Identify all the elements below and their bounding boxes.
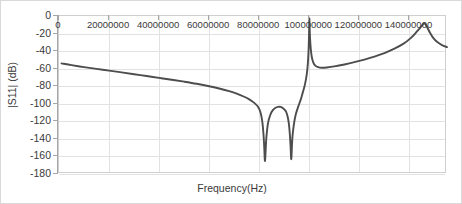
gridline-horizontal xyxy=(59,174,445,175)
y-axis-line xyxy=(57,15,58,174)
y-tick-mark xyxy=(53,33,57,34)
y-tick-mark xyxy=(53,138,57,139)
y-tick-label: -180 xyxy=(5,168,51,178)
y-axis-title: |S11| (dB) xyxy=(6,50,18,120)
x-axis-title: Frequency(Hz) xyxy=(1,182,462,194)
y-tick-label: -140 xyxy=(5,133,51,143)
y-tick-mark xyxy=(53,155,57,156)
y-tick-mark xyxy=(53,15,57,16)
series-path-s11 xyxy=(62,18,448,161)
y-tick-label: 0 xyxy=(5,10,51,20)
y-tick-mark xyxy=(53,50,57,51)
y-tick-label: -160 xyxy=(5,150,51,160)
y-tick-label: -20 xyxy=(5,28,51,38)
series-line-s11 xyxy=(59,16,447,174)
chart-container: 0-20-40-60-80-100-120-140-160-180 020000… xyxy=(0,0,462,204)
y-tick-mark xyxy=(53,173,57,174)
plot-area xyxy=(58,15,446,173)
y-tick-mark xyxy=(53,68,57,69)
y-tick-mark xyxy=(53,85,57,86)
y-tick-mark xyxy=(53,120,57,121)
y-tick-mark xyxy=(53,103,57,104)
